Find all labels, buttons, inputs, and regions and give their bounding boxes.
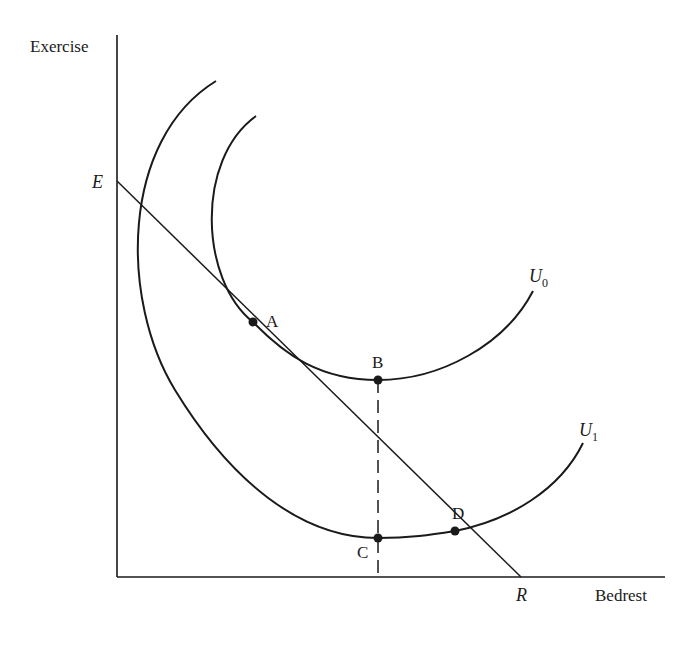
- curve-u1-name: U: [579, 420, 593, 440]
- point-a: [249, 318, 258, 327]
- point-b: [374, 376, 383, 385]
- point-d: [451, 527, 460, 536]
- label-b: B: [372, 353, 383, 372]
- curve-u0-subscript: 0: [542, 276, 548, 290]
- point-c: [374, 534, 383, 543]
- label-a: A: [266, 312, 279, 331]
- label-e: E: [91, 172, 103, 192]
- indifference-curve-diagram: Exercise Bedrest E R A B C D U0 U1: [0, 0, 699, 664]
- indifference-curve-u0: [212, 116, 533, 380]
- x-axis-label: Bedrest: [595, 586, 647, 605]
- curve-label-u1: U1: [579, 420, 598, 444]
- curve-label-u0: U0: [529, 266, 548, 290]
- indifference-curve-u1: [138, 81, 583, 538]
- curve-u0-name: U: [529, 266, 543, 286]
- label-r: R: [515, 585, 527, 605]
- label-c: C: [357, 543, 368, 562]
- label-d: D: [452, 504, 464, 523]
- curve-u1-subscript: 1: [592, 430, 598, 444]
- y-axis-label: Exercise: [30, 37, 89, 56]
